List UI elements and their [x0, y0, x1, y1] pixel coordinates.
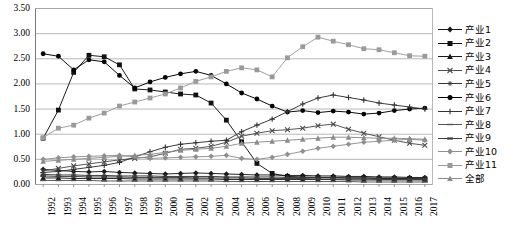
- x-tick-label: 2013: [368, 197, 378, 216]
- legend: 产业1产业2产业3产业4产业5产业6产业7产业8产业9产业10产业11全部: [437, 22, 521, 185]
- x-tick-label: 2005: [246, 197, 256, 216]
- x-tick-label: 2001: [185, 197, 195, 216]
- square-marker-icon: [437, 36, 463, 49]
- x-tick-label: 2016: [414, 197, 424, 216]
- legend-item-1[interactable]: 产业1: [437, 22, 521, 36]
- dash-marker-icon: [437, 117, 463, 130]
- x-tick-label: 1998: [139, 197, 149, 216]
- legend-label: 产业6: [463, 90, 491, 104]
- y-tick-label: 0.00: [0, 179, 30, 189]
- x-tick-label: 2011: [337, 197, 347, 216]
- x-tick-label: 1997: [124, 197, 134, 216]
- legend-item-7[interactable]: 产业7: [437, 103, 521, 117]
- legend-label: 产业1: [463, 22, 491, 36]
- x-tick-label: 2010: [322, 197, 332, 216]
- x-tick-label: 2007: [276, 197, 286, 216]
- legend-item-9[interactable]: 产业9: [437, 130, 521, 144]
- y-tick-label: 1.50: [0, 104, 30, 114]
- square-marker-icon: [437, 158, 463, 171]
- bar-marker-icon: [437, 131, 463, 144]
- plus-marker-icon: [437, 104, 463, 117]
- legend-label: 产业11: [463, 157, 497, 171]
- x-tick-label: 2002: [200, 197, 210, 216]
- legend-label: 产业8: [463, 117, 491, 131]
- x-tick-label: 2015: [399, 197, 409, 216]
- y-tick-label: 3.50: [0, 3, 30, 13]
- legend-item-6[interactable]: 产业6: [437, 90, 521, 104]
- legend-item-8[interactable]: 产业8: [437, 117, 521, 131]
- x-tick-label: 2004: [231, 197, 241, 216]
- star-marker-icon: [437, 76, 463, 89]
- legend-label: 产业3: [463, 49, 491, 63]
- series-10: [40, 136, 427, 162]
- x-tick-label: 2014: [383, 197, 393, 216]
- legend-item-12[interactable]: 全部: [437, 171, 521, 185]
- series-4: [41, 122, 428, 174]
- x-tick-label: 2006: [261, 197, 271, 216]
- x-tick-label: 1993: [63, 197, 73, 216]
- legend-label: 产业10: [463, 144, 497, 158]
- x-tick-label: 1996: [108, 197, 118, 216]
- legend-label: 产业9: [463, 130, 491, 144]
- x-tick-label: 1999: [154, 197, 164, 216]
- legend-item-5[interactable]: 产业5: [437, 76, 521, 90]
- x-tick-label: 2012: [353, 197, 363, 216]
- legend-label: 产业5: [463, 76, 491, 90]
- diamond-marker-icon: [437, 22, 463, 35]
- legend-item-4[interactable]: 产业4: [437, 63, 521, 77]
- x-tick-label: 2009: [307, 197, 317, 216]
- x-tick-label: 2008: [292, 197, 302, 216]
- y-tick-label: 1.00: [0, 129, 30, 139]
- x-tick-label: 1995: [93, 197, 103, 216]
- x-tick-label: 2017: [429, 197, 439, 216]
- series-2: [41, 53, 428, 182]
- legend-item-3[interactable]: 产业3: [437, 49, 521, 63]
- legend-label: 产业2: [463, 35, 491, 49]
- y-tick-label: 2.00: [0, 78, 30, 88]
- y-tick-label: 2.50: [0, 53, 30, 63]
- y-tick-label: 0.50: [0, 154, 30, 164]
- x-tick-label: 1992: [47, 197, 57, 216]
- legend-item-2[interactable]: 产业2: [437, 36, 521, 50]
- legend-label: 产业4: [463, 62, 491, 76]
- triangle-marker-icon: [437, 171, 463, 184]
- x-tick-label: 2003: [215, 197, 225, 216]
- diamond-marker-icon: [437, 144, 463, 157]
- circle-marker-icon: [437, 90, 463, 103]
- x-tick-label: 2000: [169, 197, 179, 216]
- legend-item-10[interactable]: 产业10: [437, 144, 521, 158]
- triangle-marker-icon: [437, 49, 463, 62]
- legend-label: 产业7: [463, 103, 491, 117]
- series-11: [41, 35, 428, 140]
- legend-label: 全部: [463, 171, 485, 185]
- legend-item-11[interactable]: 产业11: [437, 157, 521, 171]
- line-chart: 0.000.501.001.502.002.503.003.50 1992199…: [0, 0, 521, 237]
- y-tick-label: 3.00: [0, 28, 30, 38]
- x-tick-label: 1994: [78, 197, 88, 216]
- x-marker-icon: [437, 63, 463, 76]
